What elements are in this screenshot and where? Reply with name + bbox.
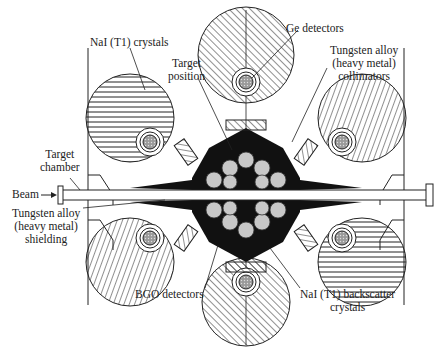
label-beam: Beam xyxy=(12,188,39,201)
label-shielding: Tungsten alloy (heavy metal) shielding xyxy=(12,207,80,246)
label-ge-detectors: Ge detectors xyxy=(286,22,344,35)
label-bgo-detectors: BGO detectors xyxy=(135,288,204,301)
label-collimators: Tungsten alloy (heavy metal) collimators xyxy=(330,44,398,83)
beam-arrow-icon xyxy=(41,192,57,198)
label-nai-crystals: NaI (T1) crystals xyxy=(90,36,169,49)
label-target-chamber: Target chamber xyxy=(40,148,80,174)
label-target-position: Target position xyxy=(168,57,205,83)
detector-array-diagram: NaI (T1) crystals Ge detectors Target po… xyxy=(0,0,446,353)
label-backscatter-crystals: NaI (T1) backscatter crystals xyxy=(300,288,395,314)
